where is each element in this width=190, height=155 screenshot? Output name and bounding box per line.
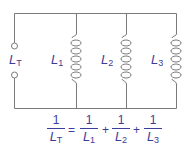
total-inductance-formula: 1 LT = 1 L1 + 1 L2 + 1 L3 <box>0 114 190 154</box>
label-l2: L2 <box>101 53 113 70</box>
label-l1: L1 <box>51 53 63 70</box>
label-lt: LT <box>9 53 22 70</box>
equals-sign: = <box>68 123 75 137</box>
inductor-l3 <box>171 14 181 109</box>
plus-sign: + <box>133 123 140 137</box>
fraction-lhs: 1 LT <box>47 114 65 147</box>
inductor-l2 <box>121 14 131 109</box>
fraction-term-1: 1 L1 <box>80 114 98 147</box>
terminal-top <box>12 43 18 49</box>
fraction-term-3: 1 L3 <box>144 114 162 147</box>
inductor-l1 <box>71 14 81 109</box>
fraction-term-2: 1 L2 <box>112 114 130 147</box>
plus-sign: + <box>102 123 109 137</box>
label-l3: L3 <box>151 53 163 70</box>
terminal-bottom <box>12 72 18 78</box>
